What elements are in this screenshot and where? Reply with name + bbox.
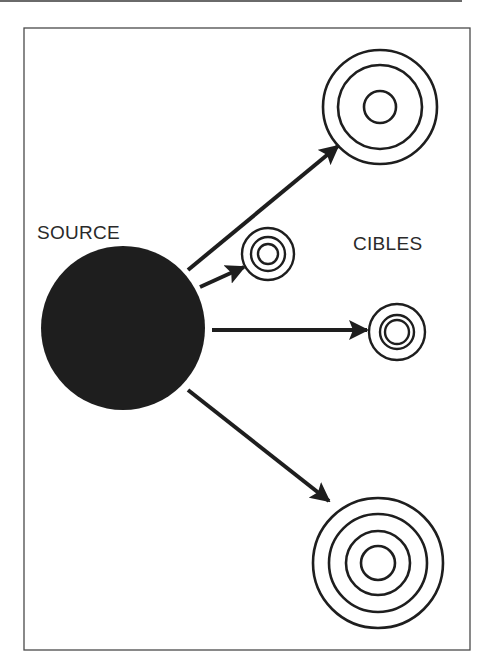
- targets-label: CIBLES: [353, 233, 422, 254]
- target-middle: [369, 304, 425, 360]
- target-bottom-ring-3: [346, 531, 410, 595]
- arrow-to-target-bottom: [188, 390, 329, 501]
- target-small-ring-middle: [251, 237, 285, 271]
- source-circle: [41, 246, 205, 410]
- source-label: SOURCE: [37, 222, 120, 243]
- target-small: [242, 228, 294, 280]
- arrow-to-target-small: [200, 267, 244, 287]
- arrow-to-target-top: [188, 146, 338, 270]
- target-bottom-ring-1: [313, 498, 443, 628]
- target-small-ring-inner: [258, 244, 278, 264]
- target-top-ring-inner: [364, 91, 396, 123]
- target-bottom-ring-2: [329, 514, 427, 612]
- target-top: [323, 50, 437, 164]
- source-targets-diagram: SOURCE CIBLES: [0, 0, 479, 668]
- target-bottom-ring-4: [361, 546, 395, 580]
- target-top-ring-outer: [323, 50, 437, 164]
- target-top-ring-middle: [338, 65, 422, 149]
- target-bottom: [313, 498, 443, 628]
- target-middle-ring-inner: [385, 320, 409, 344]
- target-middle-ring-outer: [369, 304, 425, 360]
